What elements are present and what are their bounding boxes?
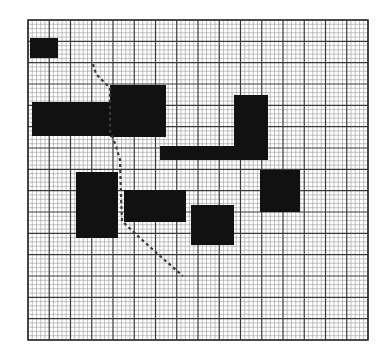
obstacle-rect [76,172,118,238]
obstacle-rect [260,170,300,212]
obstacle-rect [30,38,58,58]
obstacle-rect [124,190,186,222]
obstacle-rect [32,102,110,136]
grid-map-canvas [0,0,388,352]
grid-map-figure: Grid occupancy map with planned path [0,0,388,352]
obstacle-rect [191,205,234,245]
obstacle-rect [110,85,166,137]
obstacle-rect [160,146,268,160]
